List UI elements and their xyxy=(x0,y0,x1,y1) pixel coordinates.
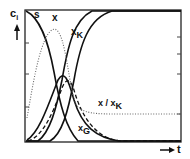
label-x: x xyxy=(52,13,58,23)
y-axis-label-sub: i xyxy=(16,14,18,21)
label-x-k-main: x xyxy=(71,26,77,37)
y-axis-arrow-icon xyxy=(14,24,20,40)
curve-x xyxy=(26,11,181,141)
curve-x-g xyxy=(27,76,181,141)
label-x-g-sub: G xyxy=(83,126,90,136)
chart-canvas xyxy=(0,0,190,159)
label-ratio-sub: K xyxy=(116,101,123,111)
label-x-g: xG xyxy=(78,124,90,133)
plot-frame xyxy=(25,10,181,142)
label-ratio-x-xk: x / xK xyxy=(98,99,122,108)
label-ratio-main: x / x xyxy=(98,98,116,108)
y-axis-label: ci xyxy=(10,8,18,19)
label-x-k: xK xyxy=(71,27,83,37)
curve-s xyxy=(26,11,181,141)
x-axis-label: t xyxy=(177,144,181,155)
curve-x-k xyxy=(26,11,181,141)
t-axis-arrow-icon xyxy=(160,147,175,153)
label-s: s xyxy=(34,10,40,20)
curve-dashed-intermediate xyxy=(28,81,181,141)
label-x-k-sub: K xyxy=(77,30,84,40)
